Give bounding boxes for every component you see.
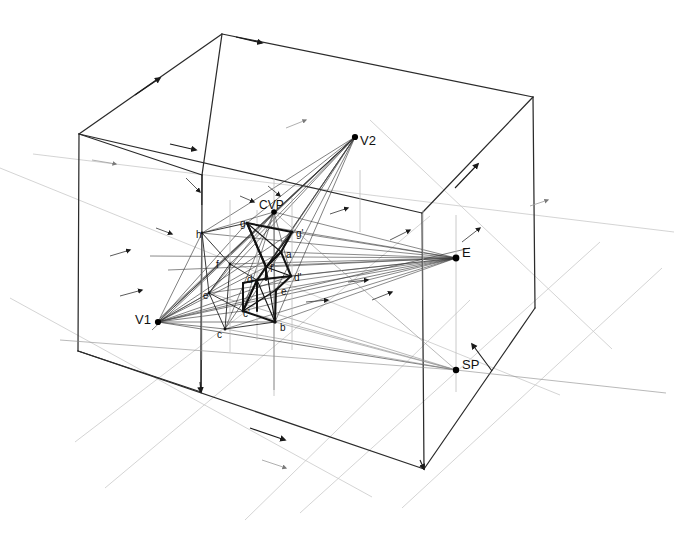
label-h: h [196,229,202,240]
label-e2: e' [203,290,211,301]
label-c2: c' [243,308,250,319]
label-b: b [280,322,286,333]
point-E [453,255,460,262]
point-V2 [352,134,358,140]
label-d2: d' [294,272,302,283]
label-V2: V2 [360,133,376,148]
drawing-canvas: V2V1ESPCVPhgg'aff'dd'ee'cc'b [0,0,674,537]
label-c: c [217,329,222,340]
label-e: e [281,286,287,297]
label-layer: V2V1ESPCVPhgg'aff'dd'ee'cc'b [135,133,479,372]
rays-from-SP [60,212,666,393]
construction-arrowheads [110,178,480,302]
label-V1: V1 [135,312,151,327]
rays-from-V2 [152,137,355,330]
label-f: f [216,259,219,270]
label-E: E [462,245,471,260]
point-SP [453,367,459,373]
faint-extension-lines [0,120,674,520]
label-d: d [247,274,253,285]
perspective-diagram-svg: V2V1ESPCVPhgg'aff'dd'ee'cc'b [0,0,674,537]
label-CVP: CVP [259,198,284,212]
label-f2: f' [270,263,275,274]
label-g2: g' [296,228,304,239]
label-SP: SP [462,357,479,372]
label-a: a [286,249,292,260]
point-V1 [155,319,161,325]
label-g: g [240,218,246,229]
vertical-measuring-lines [202,170,456,396]
